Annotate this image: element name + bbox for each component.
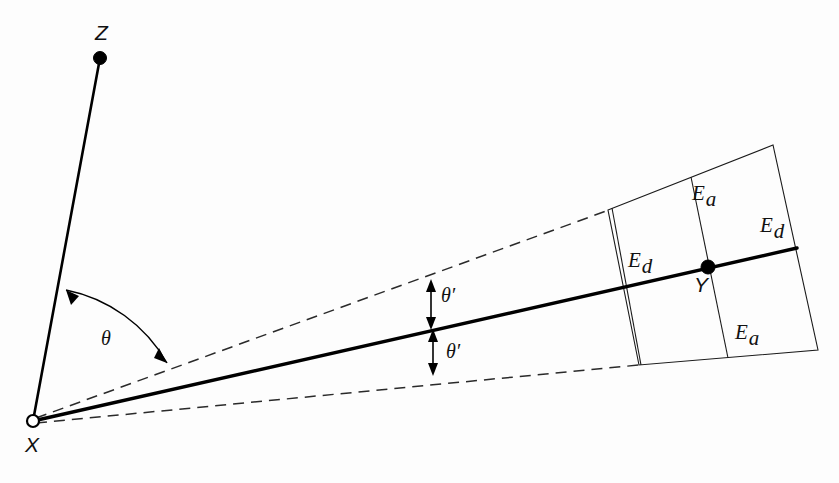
error-label-ea-lower: Ea (734, 320, 759, 350)
error-label-ed-left-subscript: d (642, 254, 653, 278)
sightline-x-y (33, 248, 797, 421)
point-y-marker (701, 260, 715, 274)
point-y-label: Y (694, 273, 710, 296)
theta-arc (66, 290, 167, 363)
angle-theta-label: θ (101, 327, 111, 349)
error-label-ea-lower-subscript: a (749, 326, 760, 350)
error-label-ea-upper: Ea (691, 181, 716, 211)
reference-line-x-z (33, 58, 100, 421)
point-x-marker (27, 415, 39, 427)
error-label-ea-upper-subscript: a (706, 187, 717, 211)
angle-theta-prime-upper-label: θ′ (441, 284, 456, 306)
point-z-label: Z (94, 21, 109, 44)
error-label-ed-right: Ed (759, 213, 785, 243)
point-z-marker (94, 52, 107, 65)
point-x-label: X (24, 433, 40, 456)
error-label-ed-right-subscript: d (774, 219, 785, 243)
dashed-lower-bound-line (36, 365, 639, 423)
angle-theta-indicator (66, 290, 167, 363)
angle-theta-prime-lower-label: θ′ (446, 340, 461, 362)
angle-theta-prime-lower-indicator (428, 329, 438, 376)
angle-theta-prime-upper-indicator (426, 279, 436, 330)
theta-prime-lower-arrowhead-bottom (428, 363, 438, 376)
geometry-figure: Z X Y θ θ′ θ′ EaEdEdEa (0, 0, 839, 483)
error-label-ed-left: Ed (627, 248, 653, 278)
theta-arrowhead-lower (154, 348, 167, 363)
theta-prime-upper-arrowhead-bottom (426, 317, 436, 330)
diagram-canvas: Z X Y θ θ′ θ′ EaEdEdEa (0, 0, 839, 483)
theta-prime-upper-arrowhead-top (426, 279, 436, 292)
